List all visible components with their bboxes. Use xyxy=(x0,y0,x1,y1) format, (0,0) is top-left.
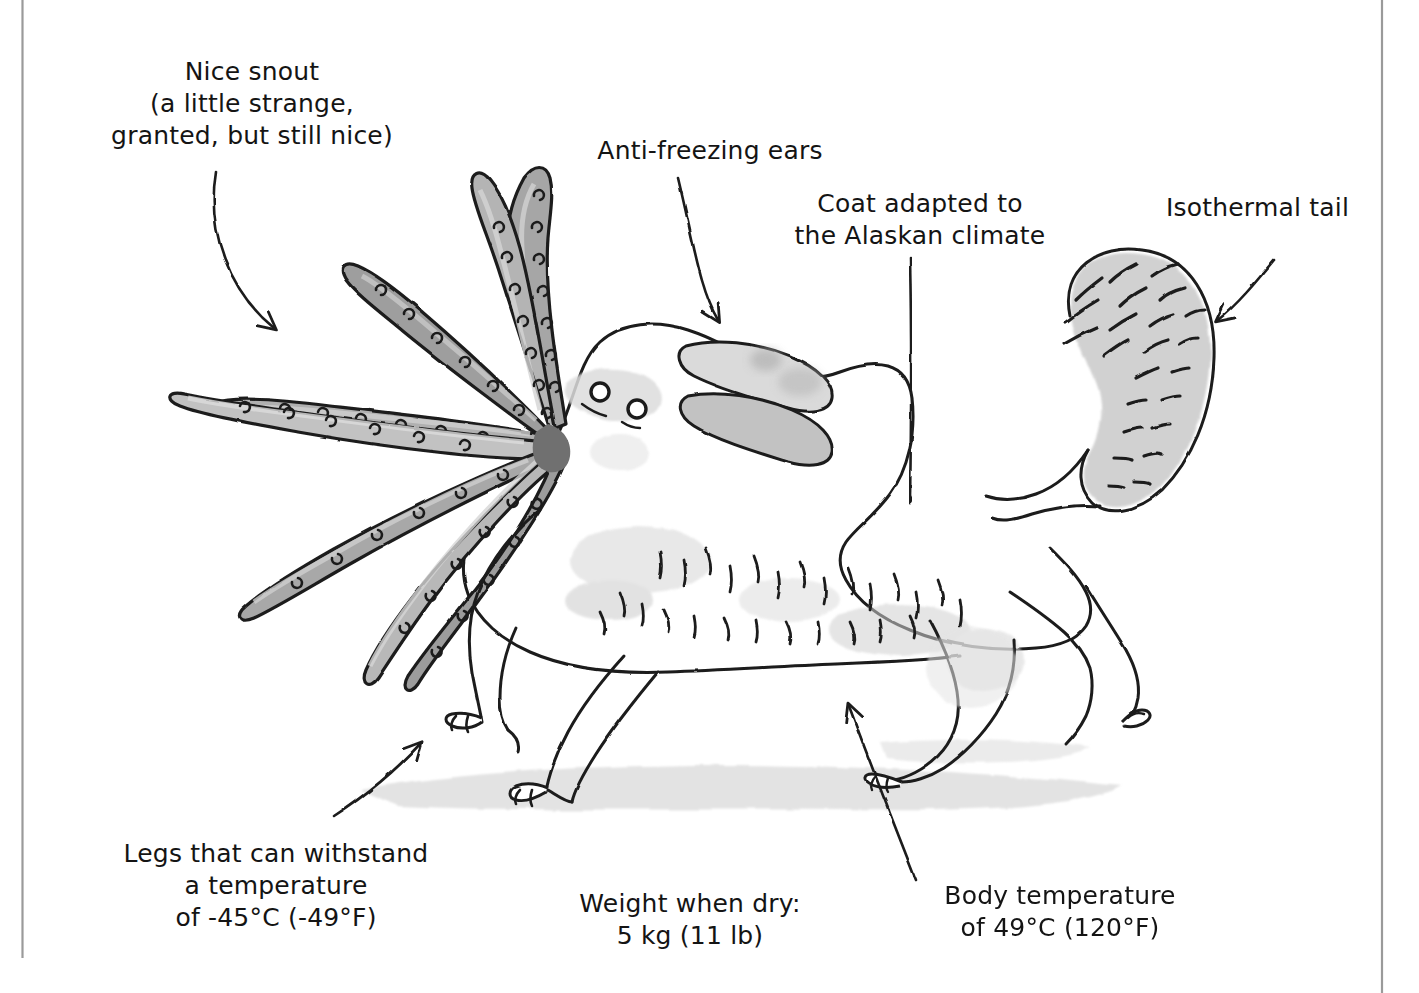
label-isothermal-tail: Isothermal tail xyxy=(1125,192,1390,224)
ground-shadow xyxy=(362,739,1120,810)
arrow-isothermal-tail xyxy=(1218,260,1274,320)
label-weight-when-dry: Weight when dry: 5 kg (11 lb) xyxy=(540,888,840,952)
label-legs-temperature: Legs that can withstand a temperature of… xyxy=(86,838,466,934)
illustration-page: Nice snout (a little strange, granted, b… xyxy=(0,0,1419,993)
tail xyxy=(986,249,1214,520)
label-coat-adapted: Coat adapted to the Alaskan climate xyxy=(770,188,1070,252)
arrow-nice-snout xyxy=(214,172,274,328)
label-nice-snout: Nice snout (a little strange, granted, b… xyxy=(72,56,432,152)
tentacle-6 xyxy=(240,448,552,620)
snout-tentacles xyxy=(170,168,570,691)
label-body-temperature: Body temperature of 49°C (120°F) xyxy=(920,880,1200,944)
arrow-coat-adapted xyxy=(910,258,911,500)
arrow-anti-freezing-ears xyxy=(678,178,718,320)
label-anti-freezing-ears: Anti-freezing ears xyxy=(560,135,860,167)
